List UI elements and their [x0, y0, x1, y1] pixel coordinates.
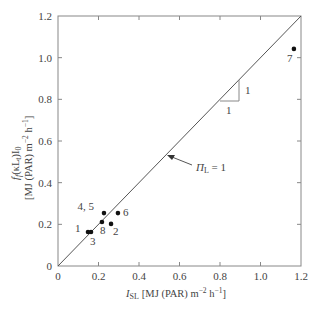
- data-point-label: 6: [123, 206, 129, 218]
- x-tick-label: 1.0: [254, 270, 268, 282]
- data-point-label: 7: [287, 52, 293, 64]
- slope-run-label: 1: [226, 104, 232, 116]
- one-to-one-line: [58, 16, 301, 266]
- y-axis-title: ff(κLt)I0 [MJ (PAR) m−2 h−1]: [10, 116, 35, 200]
- x-tick-label: 0.8: [213, 270, 227, 282]
- data-points: 1384, 5267: [75, 47, 296, 247]
- svg-text:ff(κLt)I0: ff(κLt)I0: [10, 146, 23, 180]
- x-tick-label: 0: [55, 270, 61, 282]
- data-point-label: 4, 5: [77, 200, 94, 212]
- y-tick-label: 1.2: [38, 10, 52, 22]
- x-tick-label: 0.4: [132, 270, 146, 282]
- x-tick-label: 0.6: [173, 270, 187, 282]
- y-tick-label: 1.0: [38, 52, 52, 64]
- svg-text:[MJ (PAR) m−2 h−1]: [MJ (PAR) m−2 h−1]: [21, 116, 35, 200]
- y-tick-label: 0.8: [38, 93, 52, 105]
- y-tick-label: 0.4: [38, 177, 52, 189]
- x-tick-label: 1.2: [294, 270, 308, 282]
- data-point-label: 3: [90, 235, 96, 247]
- data-point-label: 8: [100, 224, 106, 236]
- scatter-chart: 00.20.40.60.81.01.200.20.40.60.81.01.2 1…: [0, 0, 319, 309]
- pi-l-annotation: ΠL = 1: [195, 161, 226, 175]
- data-point: [89, 230, 94, 235]
- slope-rise-label: 1: [245, 84, 251, 96]
- data-point: [116, 211, 121, 216]
- y-tick-label: 0.6: [38, 135, 52, 147]
- x-tick-label: 0.2: [92, 270, 106, 282]
- y-tick-label: 0.2: [38, 218, 52, 230]
- x-axis-title: ISL[MJ (PAR) m−2 h−1]: [125, 286, 226, 301]
- data-point-label: 1: [75, 222, 81, 234]
- y-tick-label: 0: [47, 260, 53, 272]
- data-point: [292, 47, 297, 52]
- data-point-label: 2: [113, 225, 119, 237]
- data-point: [102, 211, 107, 216]
- annotation-arrow: [167, 155, 192, 165]
